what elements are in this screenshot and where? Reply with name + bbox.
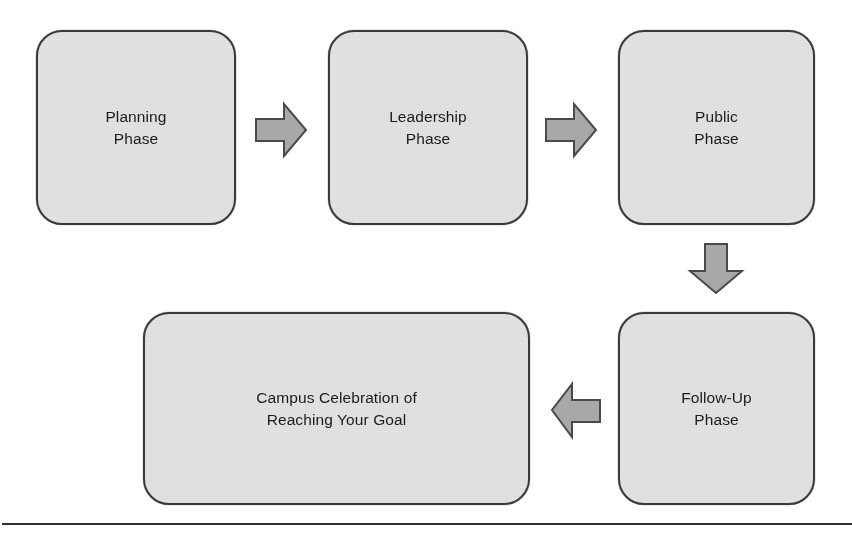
node-campus-celebration[interactable]: Campus Celebration of Reaching Your Goal <box>143 312 530 505</box>
flowchart-canvas: Planning Phase Leadership Phase Public P… <box>0 0 852 536</box>
arrow-down-public-to-followup <box>687 242 745 295</box>
node-leadership-phase-label: Leadership Phase <box>381 106 475 150</box>
node-planning-phase-label: Planning Phase <box>97 106 174 150</box>
arrow-left-followup-to-celebration <box>550 381 602 440</box>
node-followup-phase-label: Follow-Up Phase <box>673 387 760 431</box>
arrow-right-leadership-to-public <box>544 101 598 159</box>
footer-divider-rule <box>2 523 852 525</box>
arrow-right-planning-to-leadership <box>254 101 308 159</box>
node-public-phase-label: Public Phase <box>686 106 746 150</box>
node-campus-celebration-label: Campus Celebration of Reaching Your Goal <box>248 387 425 431</box>
node-planning-phase[interactable]: Planning Phase <box>36 30 236 225</box>
node-public-phase[interactable]: Public Phase <box>618 30 815 225</box>
node-followup-phase[interactable]: Follow-Up Phase <box>618 312 815 505</box>
node-leadership-phase[interactable]: Leadership Phase <box>328 30 528 225</box>
